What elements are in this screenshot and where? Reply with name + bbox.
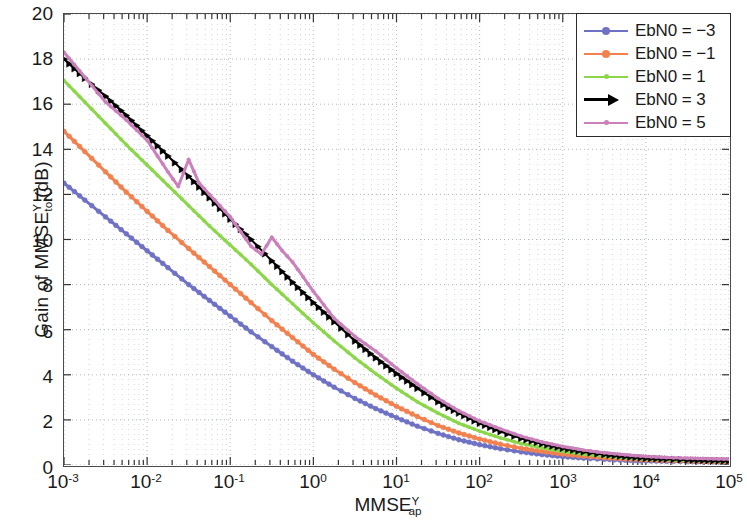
x-axis-label-base: MMSE [355,494,412,515]
legend-item-ebn0-5[interactable]: EbN0 = 5 [584,111,724,134]
y-tick-8: 8 [0,276,53,295]
legend-label-ebn0-3: EbN0 = 3 [635,90,706,110]
legend-label-ebn0-minus3: EbN0 = −3 [635,21,715,41]
legend-swatch-ebn0-1 [584,70,628,84]
x-tick-1e5: 105 [694,472,747,491]
legend-item-ebn0-minus1[interactable]: EbN0 = −1 [584,42,724,65]
legend-label-ebn0-minus1: EbN0 = −1 [635,44,715,64]
legend-label-ebn0-5: EbN0 = 5 [635,113,706,133]
legend-swatch-ebn0-3 [584,93,628,107]
x-tick-1e1: 101 [361,472,431,491]
x-axis-label: MMSE Yap [0,494,742,517]
triangle-right-icon [608,94,619,106]
y-tick-6: 6 [0,322,53,341]
y-tick-20: 20 [0,4,53,23]
y-tick-10: 10 [0,231,53,250]
legend-label-ebn0-1: EbN0 = 1 [635,67,706,87]
legend-item-ebn0-minus3[interactable]: EbN0 = −3 [584,19,724,42]
x-tick-1e-2: 10-2 [111,472,181,491]
legend-swatch-ebn0-minus3 [584,24,628,38]
x-tick-1e0: 100 [278,472,348,491]
legend-item-ebn0-1[interactable]: EbN0 = 1 [584,65,724,88]
legend-swatch-ebn0-minus1 [584,47,628,61]
x-tick-1e-1: 10-1 [194,472,264,491]
x-tick-1e3: 103 [528,472,598,491]
x-tick-1e-3: 10-3 [28,472,98,491]
y-tick-12: 12 [0,185,53,204]
y-tick-14: 14 [0,140,53,159]
y-tick-16: 16 [0,94,53,113]
x-tick-1e2: 102 [444,472,514,491]
y-tick-18: 18 [0,49,53,68]
x-axis-label-sub: ap [408,504,421,517]
legend-swatch-ebn0-5 [584,116,628,130]
y-tick-2: 2 [0,412,53,431]
x-tick-1e4: 104 [611,472,681,491]
y-tick-4: 4 [0,367,53,386]
legend-item-ebn0-3[interactable]: EbN0 = 3 [584,88,724,111]
legend: EbN0 = −3 EbN0 = −1 EbN0 = 1 EbN0 = 3 Eb… [576,13,731,137]
